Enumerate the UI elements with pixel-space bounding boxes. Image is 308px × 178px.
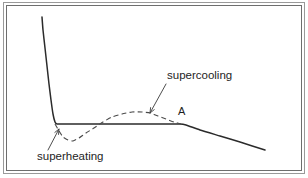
supercooling-label: supercooling [167,70,232,82]
supercooling-leader-line [150,84,166,113]
figure-root: supercooling superheating A [0,0,308,178]
ideal-curve-solid-path [42,17,265,150]
superheating-label: superheating [37,151,104,163]
superheating-leader-line [48,129,59,150]
point-a-label: A [178,106,185,117]
real-curve-dashed-path [55,112,181,141]
